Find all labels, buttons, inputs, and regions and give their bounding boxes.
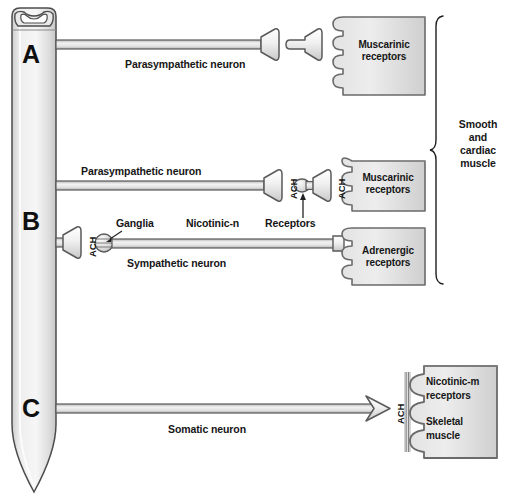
label-nicotinic-n: Nicotinic-n	[186, 218, 239, 230]
brace-label-line4: muscle	[452, 157, 504, 170]
brace-label-line1: Smooth	[452, 118, 504, 131]
label-ach-b-pre: ACH	[289, 179, 300, 199]
skeletal-box-line1: Nicotinic-m	[426, 376, 498, 387]
skeletal-box-line4: muscle	[426, 430, 498, 441]
label-parasympathetic-neuron-a: Parasympathetic neuron	[125, 59, 245, 71]
receptor-box-adrenergic-line2: receptors	[352, 257, 424, 268]
label-ganglia: Ganglia	[116, 218, 154, 230]
label-ach-b-post: ACH	[337, 179, 348, 199]
label-ach-sympathetic-pre: ACH	[88, 237, 99, 257]
label-somatic-neuron: Somatic neuron	[168, 424, 246, 436]
receptors-pointer-arrow	[300, 193, 306, 218]
brace-label-line2: and	[452, 131, 504, 144]
label-ach-somatic: ACH	[396, 404, 407, 424]
receptor-box-b-line1: Muscarinic	[352, 172, 424, 183]
brace-label-line3: cardiac	[452, 144, 504, 157]
smooth-cardiac-muscle-brace	[430, 16, 443, 284]
label-parasympathetic-neuron-b: Parasympathetic neuron	[81, 166, 201, 178]
skeletal-box-line2: receptors	[426, 390, 498, 401]
receptor-box-b-line2: receptors	[352, 184, 424, 195]
receptor-box-a-line2: receptors	[345, 51, 423, 62]
branch-letter-a: A	[22, 40, 40, 68]
diagram-canvas: A B C Parasympathetic neuron Muscarinic …	[0, 0, 508, 500]
label-receptors: Receptors	[265, 218, 315, 230]
branch-letter-b: B	[22, 207, 40, 235]
label-sympathetic-neuron: Sympathetic neuron	[127, 258, 226, 270]
skeletal-box-line3: Skeletal	[426, 416, 498, 427]
receptor-box-a-line1: Muscarinic	[345, 39, 423, 50]
branch-letter-c: C	[22, 394, 40, 422]
receptor-box-adrenergic-line1: Adrenergic	[352, 245, 424, 256]
